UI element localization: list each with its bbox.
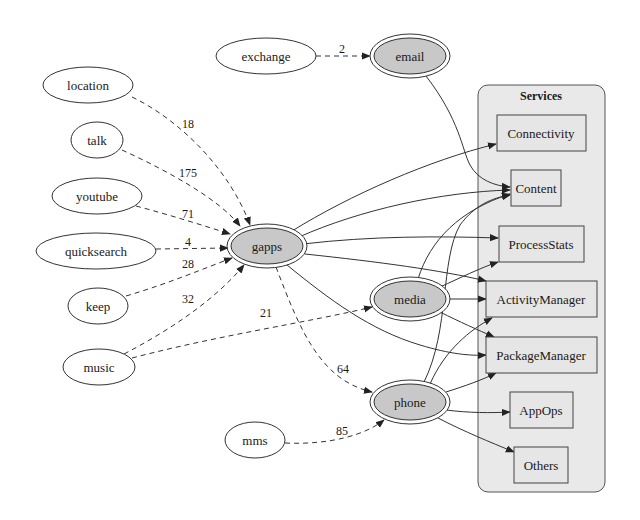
svg-text:location: location bbox=[67, 78, 109, 93]
service-others[interactable]: Others bbox=[514, 447, 568, 483]
edge-label-mms-phone: 85 bbox=[336, 424, 348, 438]
node-mms[interactable]: mms bbox=[225, 422, 285, 458]
service-dependency-diagram: Services bbox=[0, 0, 640, 520]
node-location[interactable]: location bbox=[43, 67, 133, 103]
svg-text:exchange: exchange bbox=[241, 49, 290, 64]
edge-quicksearch-gapps bbox=[156, 248, 228, 249]
edge-music-gapps bbox=[124, 265, 244, 354]
node-music[interactable]: music bbox=[63, 349, 135, 385]
svg-text:Others: Others bbox=[524, 458, 559, 473]
edge-music-media bbox=[132, 307, 372, 358]
svg-text:media: media bbox=[394, 292, 426, 307]
edge-talk-gapps bbox=[122, 150, 240, 226]
svg-text:keep: keep bbox=[86, 299, 111, 314]
svg-text:music: music bbox=[83, 360, 114, 375]
svg-text:ProcessStats: ProcessStats bbox=[509, 237, 574, 252]
svg-text:Connectivity: Connectivity bbox=[507, 126, 575, 141]
svg-text:PackageManager: PackageManager bbox=[496, 348, 586, 363]
edge-label-talk-gapps: 175 bbox=[179, 166, 197, 180]
service-content[interactable]: Content bbox=[511, 170, 561, 206]
service-processstats[interactable]: ProcessStats bbox=[499, 226, 584, 262]
svg-text:Content: Content bbox=[515, 181, 557, 196]
edge-label-quicksearch-gapps: 4 bbox=[185, 235, 191, 249]
node-keep[interactable]: keep bbox=[68, 288, 128, 324]
edge-label-exchange-email: 2 bbox=[339, 42, 345, 56]
edge-gapps-processstats bbox=[303, 237, 498, 244]
edge-label-music-media: 21 bbox=[260, 306, 272, 320]
edge-label-music-gapps: 32 bbox=[182, 292, 194, 306]
service-activitymanager[interactable]: ActivityManager bbox=[486, 281, 597, 317]
edge-label-keep-gapps: 28 bbox=[182, 257, 194, 271]
edge-gapps-activitymanager bbox=[305, 254, 486, 281]
svg-text:phone: phone bbox=[394, 395, 426, 410]
edge-label-youtube-gapps: 71 bbox=[182, 207, 194, 221]
node-youtube[interactable]: youtube bbox=[52, 178, 142, 214]
node-media[interactable]: media bbox=[370, 277, 450, 321]
node-quicksearch[interactable]: quicksearch bbox=[36, 233, 156, 269]
node-exchange[interactable]: exchange bbox=[216, 38, 316, 74]
svg-text:gapps: gapps bbox=[252, 239, 282, 254]
svg-text:AppOps: AppOps bbox=[519, 403, 562, 418]
services-cluster-label: Services bbox=[520, 89, 562, 103]
edge-keep-gapps bbox=[126, 258, 232, 296]
svg-text:talk: talk bbox=[87, 133, 107, 148]
node-talk[interactable]: talk bbox=[71, 122, 123, 158]
edge-label-gapps-phone: 64 bbox=[337, 362, 349, 376]
svg-text:email: email bbox=[396, 49, 425, 64]
service-connectivity[interactable]: Connectivity bbox=[497, 115, 586, 151]
edge-label-location-gapps: 18 bbox=[182, 117, 194, 131]
svg-text:ActivityManager: ActivityManager bbox=[497, 292, 586, 307]
node-gapps[interactable]: gapps bbox=[227, 224, 307, 268]
svg-text:mms: mms bbox=[242, 433, 267, 448]
edge-mms-phone bbox=[285, 420, 384, 443]
svg-text:youtube: youtube bbox=[76, 189, 118, 204]
node-phone[interactable]: phone bbox=[370, 380, 450, 424]
svg-text:quicksearch: quicksearch bbox=[65, 244, 128, 259]
service-appops[interactable]: AppOps bbox=[510, 392, 573, 428]
node-email[interactable]: email bbox=[370, 34, 450, 78]
service-packagemanager[interactable]: PackageManager bbox=[486, 337, 597, 373]
edge-gapps-phone bbox=[276, 267, 372, 392]
